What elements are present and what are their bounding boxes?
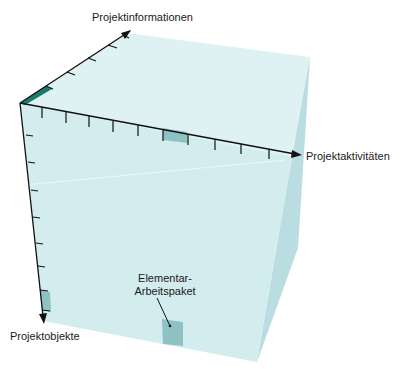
activities-axis-label: Projektaktivitäten	[306, 150, 390, 163]
callout-line-2: Arbeitspaket	[130, 285, 200, 298]
callout-dot	[169, 325, 172, 328]
callout-label: Elementar- Arbeitspaket	[130, 272, 200, 298]
information-axis-label: Projektinformationen	[92, 11, 193, 24]
cube-diagram	[0, 0, 400, 369]
callout-line-1: Elementar-	[130, 272, 200, 285]
objects-axis-label: Projektobjekte	[10, 330, 80, 343]
elementary-work-package-cell	[162, 319, 183, 346]
